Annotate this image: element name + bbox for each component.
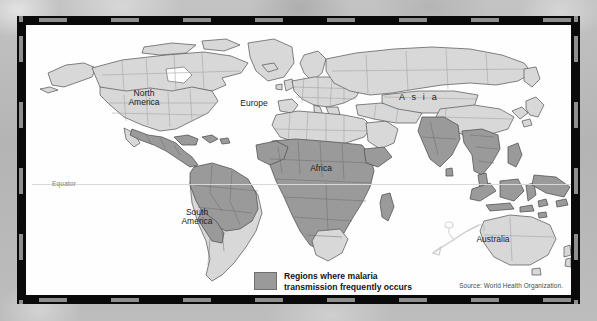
region-australia	[480, 215, 571, 275]
map-legend: Regions where malaria transmission frequ…	[254, 271, 412, 292]
world-map-graphic: .land { fill:#d8d8d8; stroke:#5b5b5b; st…	[26, 25, 571, 295]
legend-swatch-malaria	[254, 272, 277, 290]
source-attribution: Source: World Health Organization.	[459, 282, 563, 289]
equator-line	[32, 184, 571, 185]
screenshot-root: .land { fill:#d8d8d8; stroke:#5b5b5b; st…	[0, 0, 597, 321]
region-africa-malaria	[256, 139, 394, 261]
region-central-america-malaria	[130, 129, 230, 167]
region-north-america	[40, 39, 294, 147]
map-frame-border: .land { fill:#d8d8d8; stroke:#5b5b5b; st…	[17, 16, 580, 304]
map-canvas: .land { fill:#d8d8d8; stroke:#5b5b5b; st…	[26, 25, 571, 295]
legend-label: Regions where malaria transmission frequ…	[284, 271, 412, 292]
region-south-america	[190, 163, 262, 281]
